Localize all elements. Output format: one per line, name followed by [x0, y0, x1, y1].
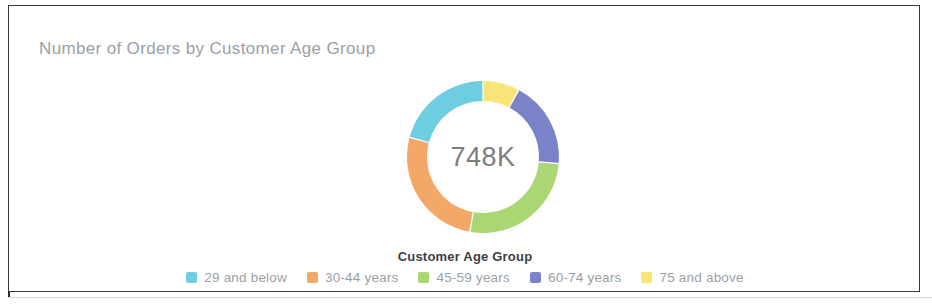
donut-chart: 748K: [399, 77, 567, 237]
chart-card: Number of Orders by Customer Age Group 7…: [8, 5, 920, 292]
legend-item[interactable]: 30-44 years: [307, 270, 399, 285]
donut-slice[interactable]: [407, 138, 473, 232]
legend-item-label: 45-59 years: [436, 270, 510, 285]
page-title: Number of Orders by Customer Age Group: [39, 39, 375, 59]
legend-swatch-icon: [186, 272, 197, 283]
donut-slice[interactable]: [510, 90, 559, 163]
donut-slice[interactable]: [471, 162, 559, 233]
donut-slice[interactable]: [410, 81, 483, 142]
donut-slice-group: [407, 81, 559, 233]
legend-title: Customer Age Group: [9, 249, 921, 264]
legend-item-label: 75 and above: [659, 270, 743, 285]
legend-item-label: 30-44 years: [325, 270, 399, 285]
page-divider: [8, 297, 932, 298]
legend-item[interactable]: 60-74 years: [530, 270, 622, 285]
donut-chart-svg: [399, 77, 567, 237]
page-root: Number of Orders by Customer Age Group 7…: [0, 0, 932, 306]
legend-item[interactable]: 29 and below: [186, 270, 287, 285]
legend-item-list: 29 and below30-44 years45-59 years60-74 …: [9, 270, 921, 285]
legend-swatch-icon: [641, 272, 652, 283]
legend-swatch-icon: [307, 272, 318, 283]
chart-legend: Customer Age Group 29 and below30-44 yea…: [9, 249, 921, 285]
legend-swatch-icon: [530, 272, 541, 283]
legend-item-label: 60-74 years: [548, 270, 622, 285]
legend-item-label: 29 and below: [204, 270, 287, 285]
legend-swatch-icon: [418, 272, 429, 283]
legend-item[interactable]: 45-59 years: [418, 270, 510, 285]
legend-item[interactable]: 75 and above: [641, 270, 743, 285]
